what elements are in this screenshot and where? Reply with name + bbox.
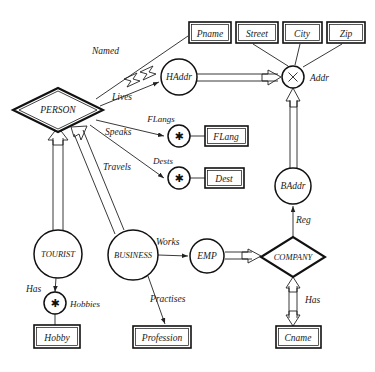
edge-label-has-company: Has: [304, 295, 321, 305]
attribute-profession[interactable]: Profession: [133, 326, 191, 348]
entity-business[interactable]: BUSINESS: [108, 230, 158, 280]
attribute-street[interactable]: Street: [236, 22, 278, 43]
asterisk-icon: ✱: [50, 297, 59, 310]
dests-label: Dests: [152, 156, 173, 166]
attribute-pname[interactable]: Pname: [189, 22, 231, 43]
hobby-label: Hobby: [43, 333, 70, 343]
company-label: COMPANY: [274, 252, 314, 262]
isa-emp-company: [225, 252, 252, 259]
edge-company-cname-head-bottom: [286, 311, 300, 326]
street-label: Street: [246, 29, 268, 39]
isa-business-person: [74, 130, 124, 234]
edge-city-addr: [295, 44, 300, 65]
entity-dests[interactable]: ✱ Dests: [152, 156, 190, 189]
attribute-cname[interactable]: Cname: [276, 326, 321, 348]
edge-label-practises: Practises: [149, 294, 186, 304]
flang-label: FLang: [212, 132, 239, 142]
attribute-flang[interactable]: FLang: [205, 126, 248, 146]
entity-tourist[interactable]: TOURIST: [34, 230, 82, 278]
zip-label: Zip: [340, 29, 353, 39]
profession-label: Profession: [141, 333, 183, 343]
haddr-label: HAddr: [165, 72, 192, 82]
asterisk-icon: ✱: [174, 130, 183, 143]
edge-label-named: Named: [91, 46, 119, 56]
entity-baddr[interactable]: BAddr: [275, 168, 311, 204]
entity-hobbies[interactable]: ✱ Hobbies: [44, 292, 100, 314]
person-label: PERSON: [39, 105, 76, 115]
city-label: City: [294, 29, 311, 39]
edge-tourist-hobbies: [55, 278, 56, 292]
isa-tourist-person: [53, 138, 63, 230]
edge-label-has-tourist: Has: [25, 284, 42, 294]
named-chevron-1: [124, 73, 140, 87]
entity-emp[interactable]: EMP: [190, 239, 224, 273]
edge-label-reg: Reg: [295, 215, 311, 225]
attribute-zip[interactable]: Zip: [327, 22, 365, 43]
attribute-city[interactable]: City: [283, 22, 322, 43]
edge-label-works: Works: [156, 237, 180, 247]
isa-haddr-addr: [197, 74, 278, 81]
entity-addr[interactable]: Addr: [282, 66, 329, 88]
tourist-label: TOURIST: [41, 249, 76, 259]
named-chevron-2: [140, 66, 156, 80]
flangs-label: FLangs: [146, 114, 175, 124]
baddr-label: BAddr: [281, 181, 306, 191]
isa-baddr-arrowhead: [286, 88, 300, 107]
cname-label: Cname: [285, 333, 312, 343]
dest-label: Dest: [214, 174, 233, 184]
entity-haddr[interactable]: HAddr: [161, 59, 197, 95]
business-label: BUSINESS: [114, 250, 153, 260]
hobbies-label: Hobbies: [69, 299, 100, 309]
asterisk-icon: ✱: [174, 172, 183, 185]
entity-flangs[interactable]: ✱ FLangs: [146, 114, 190, 147]
isa-emp-arrowhead: [242, 249, 261, 263]
edge-company-cname: [289, 286, 297, 318]
edge-label-lives: Lives: [111, 92, 132, 102]
attribute-hobby[interactable]: Hobby: [34, 325, 80, 348]
edge-zip-addr: [303, 44, 342, 67]
edge-street-addr: [253, 44, 288, 66]
entity-person[interactable]: PERSON: [13, 88, 103, 132]
edge-label-travels: Travels: [103, 162, 131, 172]
er-diagram-canvas: PERSON TOURIST BUSINESS EMP COMPANY HAdd…: [0, 0, 375, 372]
edge-business-emp: [158, 255, 188, 256]
addr-label: Addr: [309, 73, 329, 83]
pname-label: Pname: [196, 29, 223, 39]
edge-label-speaks: Speaks: [105, 127, 132, 137]
attribute-dest[interactable]: Dest: [205, 168, 244, 188]
isa-haddr-arrowhead: [262, 70, 281, 85]
isa-baddr-addr: [290, 100, 297, 168]
entity-company[interactable]: COMPANY: [261, 237, 325, 277]
emp-label: EMP: [196, 251, 217, 261]
edge-company-cname-head-top: [286, 277, 300, 292]
